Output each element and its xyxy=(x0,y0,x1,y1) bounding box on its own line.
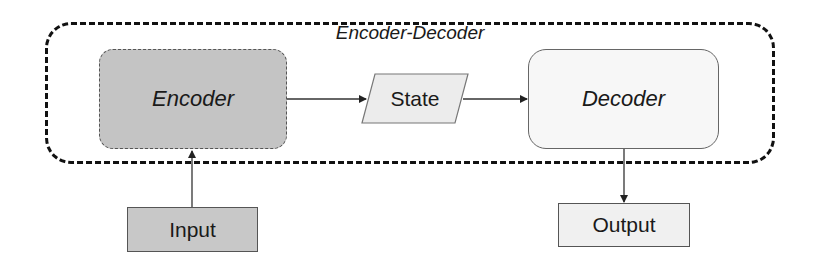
state-node: State xyxy=(361,73,469,124)
encoder-node: Encoder xyxy=(99,49,287,149)
decoder-label: Decoder xyxy=(582,86,665,112)
container-label: Encoder-Decoder xyxy=(330,22,490,44)
decoder-node: Decoder xyxy=(528,49,719,149)
output-label: Output xyxy=(592,213,655,237)
input-node: Input xyxy=(127,207,258,252)
input-label: Input xyxy=(169,218,216,242)
state-label: State xyxy=(390,87,439,111)
encoder-label: Encoder xyxy=(152,86,234,112)
output-node: Output xyxy=(558,203,690,247)
